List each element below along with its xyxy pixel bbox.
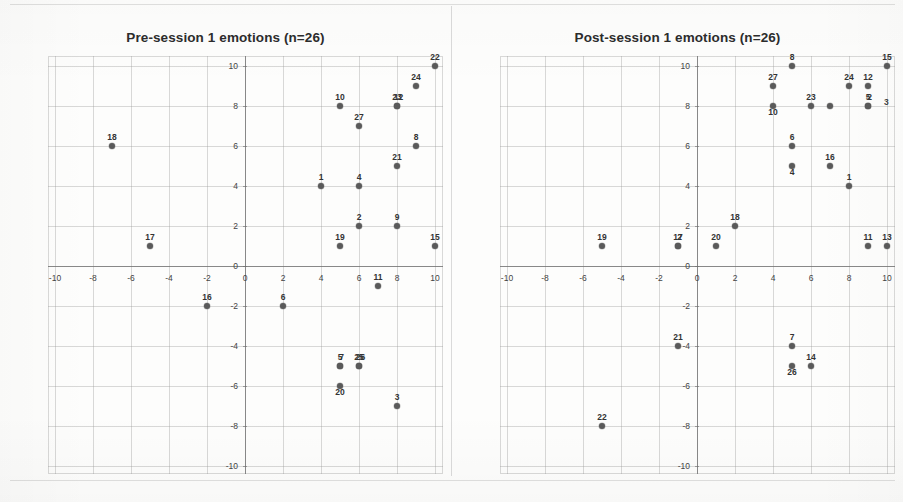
y-axis-tick-label: 0	[233, 261, 238, 271]
scatter-point[interactable]	[789, 343, 795, 349]
scatter-point[interactable]	[394, 403, 400, 409]
gridline-vertical	[507, 56, 508, 474]
x-axis-tick-label: 4	[771, 273, 776, 283]
scatter-point[interactable]	[846, 183, 852, 189]
scatter-point[interactable]	[789, 143, 795, 149]
panel-divider	[451, 6, 452, 476]
scatter-point[interactable]	[394, 103, 400, 109]
scatter-point-label: 12	[394, 93, 403, 102]
scatter-point-label: 27	[768, 73, 777, 82]
scatter-point[interactable]	[337, 103, 343, 109]
scatter-point[interactable]	[884, 63, 890, 69]
x-axis-tick-label: 2	[733, 273, 738, 283]
scatter-point[interactable]	[356, 363, 362, 369]
y-axis-tick-label: -6	[230, 381, 238, 391]
y-axis-tick-label: 6	[233, 141, 238, 151]
y-axis-tick-label: -4	[230, 341, 238, 351]
scatter-point[interactable]	[432, 243, 438, 249]
x-axis-tick-label: 10	[430, 273, 439, 283]
scatter-point-label: 22	[597, 413, 606, 422]
scatter-point[interactable]	[375, 283, 381, 289]
scatter-point[interactable]	[884, 243, 890, 249]
scatter-point-label: 8	[790, 53, 795, 62]
scatter-point[interactable]	[846, 83, 852, 89]
scatter-point[interactable]	[770, 83, 776, 89]
scatter-point-label: 18	[107, 133, 116, 142]
scatter-point[interactable]	[808, 103, 814, 109]
y-axis-tick-label: 10	[681, 61, 690, 71]
plot-area-post-session[interactable]: -10-8-6-4-202468101086420-2-4-6-8-101582…	[452, 0, 903, 502]
scatter-point[interactable]	[732, 223, 738, 229]
plot-area-pre-session[interactable]: -10-8-6-4-202468101086420-2-4-6-8-102224…	[0, 0, 451, 502]
scatter-point[interactable]	[147, 243, 153, 249]
x-axis-tick-label: -6	[127, 273, 135, 283]
x-axis-tick-label: 0	[695, 273, 700, 283]
scatter-point[interactable]	[109, 143, 115, 149]
scatter-point-label: 4	[790, 168, 795, 177]
scatter-point[interactable]	[204, 303, 210, 309]
scatter-point[interactable]	[827, 103, 833, 109]
scatter-point[interactable]	[337, 363, 343, 369]
x-axis-tick-label: 10	[882, 273, 891, 283]
x-axis-tick-label: 8	[395, 273, 400, 283]
x-axis-tick-label: -8	[541, 273, 549, 283]
x-axis-tick-label: -10	[501, 273, 513, 283]
scatter-point[interactable]	[394, 223, 400, 229]
scatter-point-label: 20	[711, 233, 720, 242]
scatter-point-label: 16	[825, 153, 834, 162]
scatter-point[interactable]	[432, 63, 438, 69]
y-axis-tick-label: -10	[678, 461, 690, 471]
gridline-vertical	[811, 56, 812, 474]
scatter-point-label: 27	[354, 113, 363, 122]
y-axis-tick-mark	[695, 386, 699, 387]
scatter-point[interactable]	[337, 243, 343, 249]
scatter-point-label: 15	[430, 233, 439, 242]
scatter-point[interactable]	[865, 243, 871, 249]
scatter-point[interactable]	[599, 243, 605, 249]
scatter-point-label: 24	[411, 73, 420, 82]
scatter-point-label: 11	[864, 233, 873, 242]
y-axis-tick-label: 8	[685, 101, 690, 111]
scatter-point-label: 14	[806, 353, 815, 362]
scan-sheet-line-top	[10, 4, 895, 5]
y-axis-tick-mark	[243, 66, 247, 67]
y-axis-tick-mark	[695, 466, 699, 467]
scatter-point-label: 7	[339, 353, 344, 362]
gridline-vertical	[735, 56, 736, 474]
y-axis-tick-mark	[243, 426, 247, 427]
y-axis-tick-mark	[243, 186, 247, 187]
scatter-point[interactable]	[394, 163, 400, 169]
x-axis-tick-label: 8	[847, 273, 852, 283]
x-axis-tick-label: -10	[49, 273, 61, 283]
scatter-point[interactable]	[356, 123, 362, 129]
scatter-point[interactable]	[413, 143, 419, 149]
scatter-point-label: 19	[335, 233, 344, 242]
scatter-point[interactable]	[865, 83, 871, 89]
scatter-point[interactable]	[356, 183, 362, 189]
y-axis-tick-label: 2	[685, 221, 690, 231]
gridline-vertical	[659, 56, 660, 474]
scatter-point[interactable]	[318, 183, 324, 189]
scatter-point[interactable]	[827, 163, 833, 169]
scatter-point[interactable]	[413, 83, 419, 89]
scatter-point[interactable]	[789, 63, 795, 69]
gridline-vertical	[93, 56, 94, 474]
scatter-point[interactable]	[675, 243, 681, 249]
scatter-point[interactable]	[599, 423, 605, 429]
scatter-point-label: 15	[882, 53, 891, 62]
gridline-vertical	[621, 56, 622, 474]
scatter-point[interactable]	[808, 363, 814, 369]
scatter-point[interactable]	[675, 343, 681, 349]
y-axis-tick-label: 4	[233, 181, 238, 191]
scatter-point[interactable]	[865, 103, 871, 109]
chart-panel-post-session: Post-session 1 emotions (n=26) -10-8-6-4…	[452, 0, 903, 502]
scatter-point[interactable]	[356, 223, 362, 229]
scatter-point[interactable]	[713, 243, 719, 249]
scatter-point-label: 9	[395, 213, 400, 222]
scan-sheet-line-bottom	[10, 480, 895, 481]
gridline-vertical	[131, 56, 132, 474]
scatter-point[interactable]	[280, 303, 286, 309]
scatter-point-label: 1	[847, 173, 852, 182]
scatter-point-label: 16	[202, 293, 211, 302]
scatter-point-label: 23	[806, 93, 815, 102]
